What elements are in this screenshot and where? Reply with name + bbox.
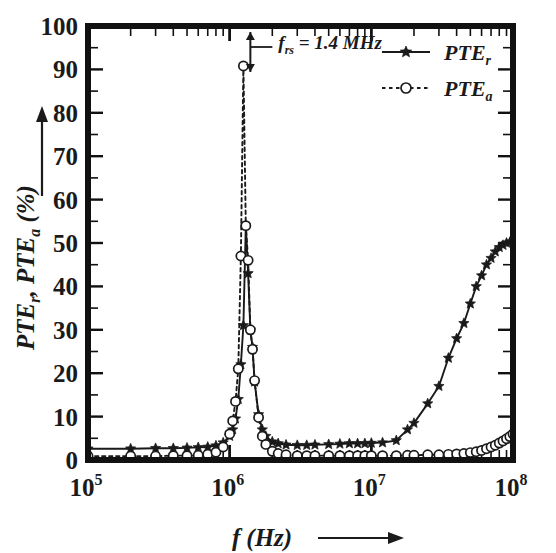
legend-label-PTE_r: PTEr xyxy=(443,40,492,68)
marker-circle xyxy=(241,221,250,230)
y-tick-label: 70 xyxy=(53,143,78,170)
y-tick-label: 90 xyxy=(53,56,78,83)
annotation-label-sub: rs xyxy=(285,43,295,57)
y-tick-label: 80 xyxy=(53,100,78,127)
marker-circle xyxy=(246,325,255,334)
x-tick-exponent: 6 xyxy=(236,471,244,488)
y-tick-label: 60 xyxy=(53,187,78,214)
x-tick-exponent: 7 xyxy=(378,471,386,488)
figure-root: 0102030405060708090100105106107108f(Hz)P… xyxy=(0,0,556,553)
legend-label-sub-PTE_r: r xyxy=(486,53,492,68)
marker-circle xyxy=(219,442,228,451)
x-tick-exponent: 8 xyxy=(520,471,528,488)
y-axis-title: PTEr, PTEa (%) xyxy=(12,185,43,351)
marker-circle xyxy=(250,376,259,385)
marker-circle xyxy=(228,416,237,425)
marker-circle xyxy=(225,429,234,438)
y-tick-label: 100 xyxy=(41,13,79,40)
marker-circle xyxy=(234,364,243,373)
y-tick-label: 30 xyxy=(53,317,78,344)
y-axis-title-sub-a: a xyxy=(26,229,43,237)
annotation-label-value: = 1.4 MHz xyxy=(294,32,382,53)
marker-circle xyxy=(244,256,253,265)
y-tick-label: 40 xyxy=(53,273,78,300)
x-axis-title-unit: (Hz) xyxy=(246,524,292,552)
chart-canvas: 0102030405060708090100105106107108f(Hz)P… xyxy=(0,0,556,553)
legend-label-sub-PTE_a: a xyxy=(486,89,493,104)
y-axis-title-unit: (%) xyxy=(12,185,40,229)
legend-label-PTE_a: PTEa xyxy=(443,76,493,104)
marker-circle xyxy=(248,345,257,354)
y-tick-label: 10 xyxy=(53,404,78,431)
y-tick-label: 20 xyxy=(53,360,78,387)
marker-circle xyxy=(239,61,248,70)
x-tick-exponent: 5 xyxy=(95,471,103,488)
y-axis-title-group: PTEr, PTEa (%) xyxy=(12,185,43,351)
y-axis-title-mid: , PTE xyxy=(12,237,39,298)
marker-circle xyxy=(231,397,240,406)
marker-circle xyxy=(254,413,263,422)
y-tick-label: 50 xyxy=(53,230,78,257)
legend-marker-circle xyxy=(401,83,411,93)
y-tick-label: 0 xyxy=(66,447,79,474)
